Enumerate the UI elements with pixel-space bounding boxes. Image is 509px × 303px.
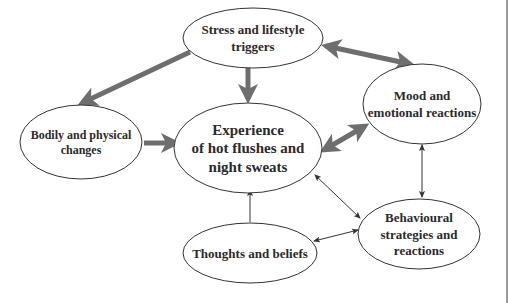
node-label: reactions xyxy=(394,243,444,258)
node-label: strategies and xyxy=(381,227,459,242)
arrow-stress-to-bodily xyxy=(82,52,190,103)
diagram-canvas: Stress and lifestyletriggersBodily and p… xyxy=(0,0,509,303)
node-label: Mood and xyxy=(394,88,451,103)
node-label: triggers xyxy=(231,39,274,54)
arrow-behaviour-to-thoughts xyxy=(314,230,358,241)
node-label: night sweats xyxy=(209,159,288,175)
node-thoughts: Thoughts and beliefs xyxy=(183,223,317,283)
node-behaviour: Behaviouralstrategies andreactions xyxy=(358,199,480,269)
node-label: Experience xyxy=(212,122,284,138)
node-label: of hot flushes and xyxy=(192,140,306,156)
node-label: Bodily and physical xyxy=(31,128,132,142)
nodes-layer: Stress and lifestyletriggersBodily and p… xyxy=(20,8,481,283)
page-edge-divider xyxy=(506,0,508,303)
node-label: Behavioural xyxy=(385,210,453,225)
node-label: Thoughts and beliefs xyxy=(192,246,308,261)
node-experience: Experienceof hot flushes andnight sweats xyxy=(174,103,322,193)
node-label: changes xyxy=(61,143,102,157)
node-mood: Mood andemotional reactions xyxy=(363,64,481,144)
node-bodily: Bodily and physicalchanges xyxy=(20,105,142,179)
node-stress: Stress and lifestyletriggers xyxy=(183,8,323,68)
arrow-behaviour-to-experience xyxy=(315,175,360,218)
arrow-stress-to-mood xyxy=(326,46,410,64)
arrow-experience-to-mood xyxy=(324,126,365,150)
node-label: emotional reactions xyxy=(368,105,476,120)
node-label: Stress and lifestyle xyxy=(201,22,304,37)
